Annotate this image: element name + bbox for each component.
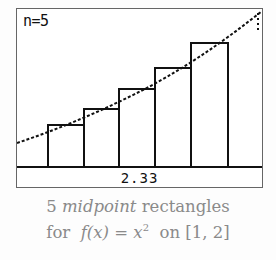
rectangle-5 — [191, 43, 228, 167]
rectangle-1 — [48, 125, 84, 167]
figure-caption: 5 midpoint rectangles for f(x) = x2 on [… — [0, 196, 276, 243]
rectangle-4 — [155, 68, 191, 167]
rectangle-3 — [119, 89, 155, 167]
caption-line-1: 5 midpoint rectangles — [0, 196, 276, 217]
caption-line-2: for f(x) = x2 on [1, 2] — [0, 217, 276, 243]
rectangle-2 — [84, 109, 119, 167]
n-label: n=5 — [23, 12, 49, 30]
function-curve — [17, 11, 262, 143]
result-value: 2.33 — [17, 169, 262, 187]
midpoint-rectangles — [48, 43, 228, 167]
calculator-screen: n=5 2.33 — [16, 8, 263, 188]
riemann-graph — [17, 9, 262, 187]
